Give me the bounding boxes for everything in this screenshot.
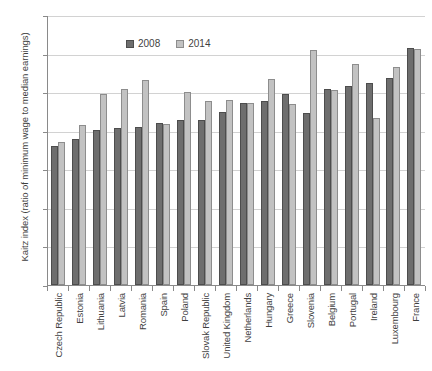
bar-group [195,16,216,285]
bar-group [111,16,132,285]
bar-2008 [177,120,184,285]
bar-2008 [261,101,268,285]
bar-2008 [324,89,331,285]
x-axis-label: Poland [178,293,189,322]
x-axis-label-cell: Slovak Republic [194,291,215,371]
bar-2014 [393,67,400,285]
bar-group [236,16,257,285]
bar-group [341,16,362,285]
bar-2008 [72,139,79,285]
x-axis-label-cell: France [404,291,425,371]
bar-2008 [135,127,142,285]
x-axis-label: Netherlands [241,293,252,343]
legend-item-2008: 2008 [126,38,160,49]
kaitz-index-bar-chart: Kaitz index (ratio of minimum wage to me… [0,0,432,371]
x-axis-label-cell: Slovenia [299,291,320,371]
bar-2008 [156,123,163,285]
bar-2014 [268,79,275,285]
bar-2014 [163,124,170,285]
x-axis-label-cell: Netherlands [236,291,257,371]
bar-2014 [142,80,149,285]
bar-2008 [240,103,247,285]
x-axis-tick-mark [425,286,426,291]
x-axis-labels: Czech RepublicEstoniaLithuaniaLatviaRoma… [47,291,425,371]
bar-2014 [373,118,380,285]
bar-group [404,16,425,285]
x-axis-label: Hungary [262,293,273,328]
bar-2014 [184,92,191,285]
legend-swatch-2008 [126,40,134,48]
bar-2008 [345,86,352,285]
legend-label-2014: 2014 [188,38,210,49]
x-axis-label-cell: Belgium [320,291,341,371]
x-axis-label: Spain [157,293,168,317]
bar-group [153,16,174,285]
bar-group [48,16,69,285]
bar-2008 [219,112,226,285]
bar-2014 [121,89,128,285]
bar-2008 [407,48,414,285]
bar-2008 [93,130,100,285]
x-axis-label-cell: Ireland [362,291,383,371]
bar-group [257,16,278,285]
x-axis-label-cell: Spain [152,291,173,371]
bar-2008 [51,146,58,285]
bar-2014 [58,142,65,285]
x-axis-label-cell: Estonia [68,291,89,371]
legend-item-2014: 2014 [176,38,210,49]
legend-swatch-2014 [176,40,184,48]
bar-2014 [205,101,212,285]
chart-legend: 2008 2014 [126,38,211,49]
x-axis-label-cell: Romania [131,291,152,371]
bar-2008 [198,120,205,285]
bar-group [132,16,153,285]
x-axis-label-cell: Portugal [341,291,362,371]
bar-2014 [100,94,107,285]
x-axis-label: Lithuania [94,293,105,330]
x-axis-label-cell: Poland [173,291,194,371]
x-axis-label-cell: Lithuania [89,291,110,371]
x-axis-label: Greece [283,293,294,323]
bar-2014 [79,125,86,285]
bar-2008 [366,83,373,286]
x-axis-label: Latvia [115,293,126,317]
plot-area: 2008 2014 [47,16,425,286]
bar-2014 [414,49,421,285]
x-axis-label-cell: Greece [278,291,299,371]
x-axis-label: Slovak Republic [199,293,210,359]
x-axis-label-cell: United Kingdom [215,291,236,371]
bar-2008 [303,113,310,285]
bar-2008 [386,78,393,285]
bar-2014 [247,103,254,285]
bar-2014 [331,90,338,285]
bar-group [278,16,299,285]
x-axis-label-cell: Luxembourg [383,291,404,371]
bar-group [320,16,341,285]
bar-group [174,16,195,285]
bar-group [383,16,404,285]
bar-group [362,16,383,285]
y-axis-title: Kaitz index (ratio of minimum wage to me… [19,2,33,292]
bar-2008 [114,128,121,285]
bar-2014 [226,100,233,285]
x-axis-label: Estonia [73,293,84,324]
bar-group [90,16,111,285]
x-axis-label: Belgium [325,293,336,326]
x-axis-label: United Kingdom [220,293,231,359]
bar-2014 [289,104,296,285]
x-axis-label: Czech Republic [52,293,63,357]
x-axis-label: Ireland [367,293,378,321]
bar-2008 [282,94,289,285]
x-axis-label: Portugal [346,293,357,327]
x-axis-label-cell: Hungary [257,291,278,371]
bar-2014 [352,64,359,285]
bar-series-container [48,16,425,285]
x-axis-label: Romania [136,293,147,330]
bar-group [69,16,90,285]
x-axis-label: Luxembourg [388,293,399,344]
bar-group [216,16,237,285]
x-axis-label: Slovenia [304,293,315,328]
bar-2014 [310,50,317,285]
bar-group [299,16,320,285]
legend-label-2008: 2008 [138,38,160,49]
